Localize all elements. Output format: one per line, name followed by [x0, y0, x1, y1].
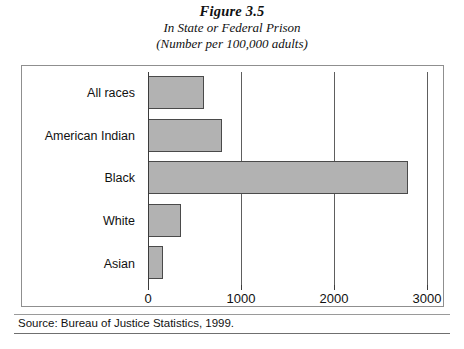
tick-mark-2000: [334, 285, 335, 290]
category-label-all-races: All races: [22, 72, 142, 115]
bar-all-races: [148, 76, 204, 109]
bar-series: [148, 72, 443, 285]
figure-title-block: Figure 3.5 In State or Federal Prison (N…: [0, 3, 464, 52]
chart-plot-frame: All races American Indian Black White As…: [21, 65, 444, 307]
figure-subtitle-line-1: In State or Federal Prison: [0, 20, 464, 36]
category-axis-labels: All races American Indian Black White As…: [22, 72, 142, 285]
value-axis-baseline: [148, 72, 149, 285]
figure-number: Figure 3.5: [0, 3, 464, 20]
bar-asian: [148, 246, 163, 279]
bar-row: [148, 200, 443, 243]
bar-row: [148, 72, 443, 115]
bar-black: [148, 161, 408, 194]
bar-row: [148, 242, 443, 285]
category-label-american-indian: American Indian: [22, 115, 142, 158]
bar-american-indian: [148, 119, 222, 152]
bar-white: [148, 204, 181, 237]
tick-mark-3000: [427, 285, 428, 290]
tick-mark-0: [148, 285, 149, 290]
source-note: Source: Bureau of Justice Statistics, 19…: [18, 317, 234, 329]
source-divider-bottom: [14, 333, 450, 334]
figure-subtitle-line-2: (Number per 100,000 adults): [0, 36, 464, 52]
value-axis: 0 1000 2000 3000: [22, 285, 443, 306]
tick-label-1000: 1000: [227, 291, 256, 306]
bar-row: [148, 157, 443, 200]
source-divider-top: [14, 314, 450, 315]
category-label-black: Black: [22, 157, 142, 200]
category-label-asian: Asian: [22, 242, 142, 285]
chart-plot-area: All races American Indian Black White As…: [22, 66, 443, 306]
tick-label-0: 0: [144, 291, 151, 306]
tick-mark-1000: [241, 285, 242, 290]
bar-row: [148, 115, 443, 158]
category-label-white: White: [22, 200, 142, 243]
tick-label-2000: 2000: [320, 291, 349, 306]
tick-label-3000: 3000: [413, 291, 442, 306]
figure-container: Figure 3.5 In State or Federal Prison (N…: [0, 0, 464, 349]
